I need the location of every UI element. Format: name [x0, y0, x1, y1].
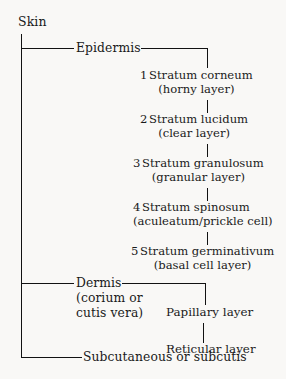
branch-label-subcutaneous: Subcutaneous or subcutis	[83, 350, 247, 365]
epidermis-layer-3-alias: (granular layer)	[133, 170, 264, 184]
branch-connector-dermis-right	[122, 283, 206, 284]
root-label-skin: Skin	[18, 15, 47, 30]
epidermis-layer-5-alias: (basal cell layer)	[131, 258, 274, 272]
epidermis-layer-4-number: 4	[133, 200, 142, 214]
dermis-layer-papillary: Papillary layer	[166, 305, 253, 319]
branch-label-epidermis: Epidermis	[76, 41, 141, 56]
branch-connector-epidermis-left	[21, 48, 74, 49]
dermis-alias-line-1: (corium or	[76, 291, 143, 306]
epidermis-layer-4-alias: (aculeatum/prickle cell)	[133, 214, 273, 228]
epidermis-layer-3-name: Stratum granulosum	[142, 156, 264, 170]
epidermis-layer-5-name: Stratum germinativum	[140, 244, 274, 258]
connector-epidermis-to-layer-1	[207, 48, 208, 68]
epidermis-layer-2-number: 2	[140, 112, 149, 126]
branch-connector-dermis-left	[21, 283, 74, 284]
epidermis-layer-4-name: Stratum spinosum	[142, 200, 250, 214]
epidermis-layer-2: 2Stratum lucidum (clear layer)	[140, 112, 248, 140]
epidermis-layer-1-number: 1	[140, 68, 149, 82]
epidermis-layer-5-number: 5	[131, 244, 140, 258]
branch-connector-epidermis-right	[141, 48, 208, 49]
branch-connector-subcutaneous	[21, 357, 82, 358]
epidermis-layer-3-number: 3	[133, 156, 142, 170]
epidermis-layer-4: 4Stratum spinosum (aculeatum/prickle cel…	[133, 200, 273, 228]
epidermis-layer-1: 1Stratum corneum (horny layer)	[140, 68, 253, 96]
epidermis-layer-1-alias: (horny layer)	[140, 82, 253, 96]
trunk-vertical-line	[21, 34, 22, 358]
connector-dermis-to-papillary	[205, 283, 206, 305]
epidermis-layer-5: 5Stratum germinativum (basal cell layer)	[131, 244, 274, 272]
branch-label-dermis: Dermis	[76, 276, 122, 291]
epidermis-layer-2-alias: (clear layer)	[140, 126, 248, 140]
dermis-alias-line-2: cutis vera)	[76, 306, 143, 321]
epidermis-layer-3: 3Stratum granulosum (granular layer)	[133, 156, 264, 184]
epidermis-layer-2-name: Stratum lucidum	[149, 112, 248, 126]
skin-layers-diagram: Skin Epidermis 1Stratum corneum (horny l…	[0, 0, 286, 379]
connector-papillary-to-reticular	[203, 323, 204, 343]
epidermis-layer-1-name: Stratum corneum	[149, 68, 253, 82]
